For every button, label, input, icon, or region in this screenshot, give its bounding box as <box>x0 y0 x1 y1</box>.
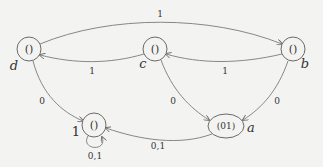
node-a: (01) a <box>208 114 255 138</box>
edge-c-to-d <box>40 54 144 62</box>
state-diagram: 1 1 1 0 0 0 0,1 0,1 () d () c () b (01) … <box>0 0 323 167</box>
node-c-content: () <box>151 43 160 56</box>
node-1: () 1 <box>72 113 106 139</box>
node-1-label: 1 <box>72 124 80 139</box>
edge-label-a-1: 0,1 <box>151 141 165 151</box>
node-c-label: c <box>139 56 147 71</box>
edge-label-b-a: 0 <box>274 96 280 106</box>
node-b-label: b <box>301 56 309 71</box>
edge-label-c-a: 0 <box>170 96 176 106</box>
node-d-content: () <box>25 43 34 56</box>
node-b: () b <box>281 37 309 71</box>
edge-b-to-a <box>243 61 288 120</box>
node-a-content: (01) <box>217 121 235 131</box>
edge-label-d-1: 0 <box>39 96 45 106</box>
node-d: () d <box>10 37 41 73</box>
node-d-label: d <box>10 58 18 73</box>
edge-label-c-d: 1 <box>89 66 95 76</box>
edge-b-to-c <box>166 54 282 62</box>
edge-d-to-1 <box>33 61 83 121</box>
edge-a-to-1 <box>106 128 212 141</box>
edge-c-to-a <box>161 60 209 120</box>
node-b-content: () <box>289 43 298 56</box>
node-1-content: () <box>90 119 99 132</box>
edge-label-1-loop: 0,1 <box>88 151 102 161</box>
edge-label-d-b: 1 <box>157 9 163 19</box>
edge-1-self-loop <box>87 136 103 147</box>
node-a-label: a <box>247 120 255 135</box>
edge-label-b-c: 1 <box>222 66 228 76</box>
